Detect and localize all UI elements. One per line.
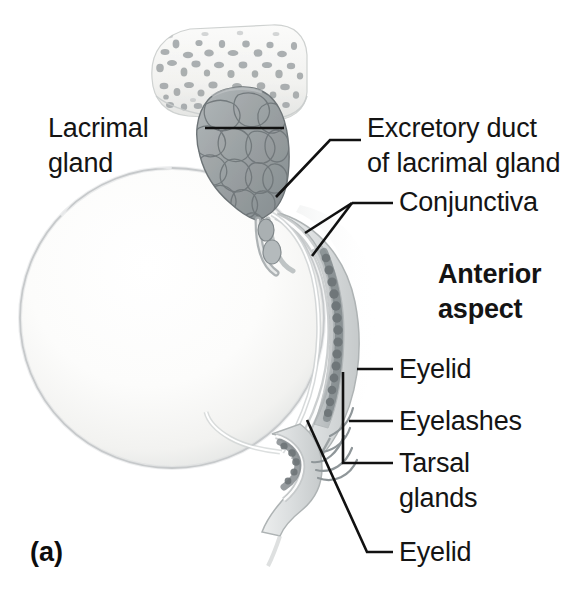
label-eyelashes: Eyelashes [399, 406, 522, 436]
label-eyelid-upper: Eyelid [399, 354, 471, 384]
label-lacrimal-gland-line1: Lacrimal [48, 113, 148, 143]
label-anterior-aspect-line1: Anterior [438, 259, 542, 289]
label-conjunctiva: Conjunctiva [399, 187, 539, 217]
diagram-canvas: Lacrimal gland Excretory duct of lacrima… [0, 0, 578, 603]
anatomy-figure-eye-accessory-structures: Lacrimal gland Excretory duct of lacrima… [0, 0, 578, 603]
label-anterior-aspect-line2: aspect [438, 294, 523, 324]
label-tarsal-glands-line1: Tarsal [399, 448, 470, 478]
label-excretory-duct-line1: Excretory duct [367, 113, 537, 143]
label-tarsal-glands-line2: glands [399, 483, 477, 513]
eyeball [20, 165, 324, 468]
label-eyelid-lower: Eyelid [399, 537, 471, 567]
label-lacrimal-gland-line2: gland [48, 148, 113, 178]
label-excretory-duct-line2: of lacrimal gland [367, 148, 560, 178]
figure-letter: (a) [30, 537, 63, 567]
